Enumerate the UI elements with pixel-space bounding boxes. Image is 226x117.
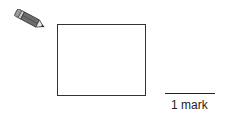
mark-label: 1 mark	[171, 99, 208, 112]
mark-line	[165, 93, 215, 94]
answer-box[interactable]	[57, 24, 146, 96]
pencil-icon	[12, 9, 50, 31]
